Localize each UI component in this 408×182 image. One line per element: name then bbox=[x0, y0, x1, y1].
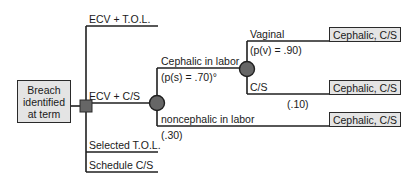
vaginal-probability: (p(v) = .90) bbox=[250, 44, 302, 56]
root-line-2: identified bbox=[23, 96, 65, 108]
terminal-outcome-cs: Cephalic, C/S bbox=[329, 80, 401, 95]
terminal-outcome-vaginal: Cephalic, C/S bbox=[329, 27, 401, 42]
noncephalic-label: noncephalic in labor bbox=[161, 113, 254, 125]
root-line-1: Breach bbox=[23, 84, 65, 96]
chance-node-labor bbox=[150, 96, 165, 111]
chance-node-delivery bbox=[240, 62, 255, 77]
strategy-selected-tol-label: Selected T.O.L. bbox=[89, 139, 161, 151]
strategy-ecv-cs-label: ECV + C/S bbox=[89, 90, 140, 102]
terminal-outcome-noncephalic: Cephalic, C/S bbox=[329, 112, 401, 127]
cephalic-probability: (p(s) = .70)° bbox=[161, 71, 217, 83]
cs-label: C/S bbox=[250, 81, 268, 93]
cephalic-label: Cephalic in labor bbox=[161, 55, 239, 67]
root-line-3: at term bbox=[23, 108, 65, 120]
root-decision-box: Breach identified at term bbox=[17, 80, 71, 123]
vaginal-label: Vaginal bbox=[250, 28, 284, 40]
strategy-schedule-cs-label: Schedule C/S bbox=[89, 159, 153, 171]
strategy-ecv-tol-label: ECV + T.O.L. bbox=[89, 13, 150, 25]
noncephalic-probability: (.30) bbox=[161, 129, 183, 141]
cs-probability: (.10) bbox=[287, 98, 309, 110]
